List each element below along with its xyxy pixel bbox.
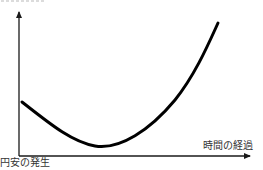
x-axis-label: 時間の経過 <box>203 141 253 151</box>
origin-label: 円安の発生 <box>0 158 50 168</box>
j-curve-line <box>22 23 218 147</box>
